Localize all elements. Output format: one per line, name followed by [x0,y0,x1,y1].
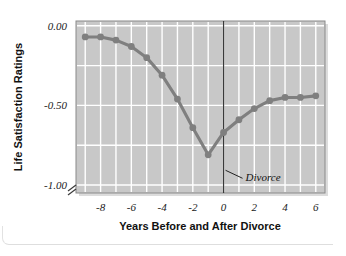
y-axis-tick-labels: 0.00-0.50-1.00 [44,20,67,191]
x-tick-label: -8 [96,201,106,213]
line-chart: 0.00-0.50-1.00 -8-6-4-20246 Years Before… [0,0,346,256]
x-tick-label: 6 [313,201,319,213]
x-tick-label: -2 [188,201,198,213]
y-tick-label: -1.00 [44,179,67,191]
x-axis-title: Years Before and After Divorce [119,220,281,232]
y-tick-label: 0.00 [48,20,68,32]
x-axis-tick-labels: -8-6-4-20246 [96,201,319,213]
x-tick-label: -4 [157,201,167,213]
x-tick-label: 0 [221,201,227,213]
plot-area-background [76,21,325,193]
y-tick-label: -0.50 [44,99,67,111]
x-tick-label: 4 [282,201,288,213]
y-axis-break-icon [68,185,76,195]
figure: 0.00-0.50-1.00 -8-6-4-20246 Years Before… [0,0,346,256]
annotation-divorce-label: Divorce [245,171,281,183]
x-tick-label: -6 [127,201,137,213]
x-tick-label: 2 [252,201,258,213]
y-axis-title: Life Satisfaction Ratings [12,43,24,171]
